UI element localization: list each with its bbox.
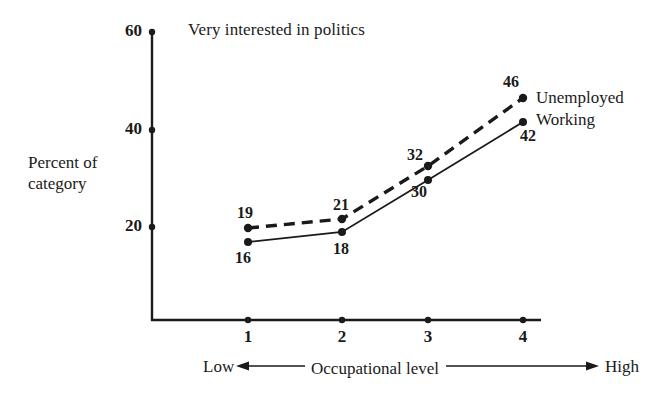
data-point-unemployed-4 bbox=[519, 94, 527, 102]
data-point-working-4 bbox=[519, 118, 527, 126]
data-label-unemployed-2: 21 bbox=[326, 197, 356, 214]
x-tick-mark-4 bbox=[520, 317, 526, 323]
politics-interest-line-chart: Very interested in politics 60 40 20 Per… bbox=[0, 0, 664, 412]
data-label-unemployed-3: 32 bbox=[400, 147, 430, 164]
data-label-working-2: 18 bbox=[326, 241, 356, 258]
y-tick-mark-60 bbox=[149, 29, 155, 35]
data-point-working-2 bbox=[338, 228, 346, 236]
y-axis-tick-label-60: 60 bbox=[108, 22, 142, 40]
series-line-unemployed bbox=[248, 98, 523, 228]
x-tick-mark-3 bbox=[425, 317, 431, 323]
x-axis-high-label: High bbox=[605, 358, 639, 376]
x-axis-low-label: Low bbox=[203, 358, 234, 376]
data-label-unemployed-4: 46 bbox=[496, 74, 526, 91]
y-tick-mark-40 bbox=[149, 127, 155, 133]
data-label-working-1: 16 bbox=[228, 250, 258, 267]
y-axis-title-line-2: category bbox=[28, 173, 97, 194]
y-axis-title: Percent of category bbox=[28, 152, 97, 195]
data-label-unemployed-1: 19 bbox=[230, 205, 260, 222]
data-label-working-3: 30 bbox=[404, 184, 434, 201]
y-axis-tick-label-40: 40 bbox=[108, 120, 142, 138]
data-point-unemployed-1 bbox=[244, 224, 252, 232]
x-axis-tick-label-1: 1 bbox=[236, 328, 260, 346]
high-direction-arrow bbox=[446, 362, 599, 371]
y-axis-title-line-1: Percent of bbox=[28, 152, 97, 173]
y-axis-tick-label-20: 20 bbox=[108, 217, 142, 235]
data-point-unemployed-2 bbox=[338, 215, 346, 223]
data-label-working-4: 42 bbox=[513, 128, 543, 145]
x-tick-mark-2 bbox=[339, 317, 345, 323]
legend-label-working: Working bbox=[536, 111, 595, 129]
legend-label-unemployed: Unemployed bbox=[536, 89, 624, 107]
x-tick-mark-1 bbox=[245, 317, 251, 323]
x-axis-tick-label-2: 2 bbox=[330, 328, 354, 346]
y-tick-mark-20 bbox=[149, 224, 155, 230]
x-axis-tick-label-4: 4 bbox=[511, 328, 535, 346]
data-point-working-1 bbox=[244, 238, 252, 246]
x-axis-title: Occupational level bbox=[310, 358, 440, 380]
low-direction-arrow bbox=[236, 362, 305, 371]
x-axis-tick-label-3: 3 bbox=[416, 328, 440, 346]
chart-title: Very interested in politics bbox=[188, 21, 365, 39]
